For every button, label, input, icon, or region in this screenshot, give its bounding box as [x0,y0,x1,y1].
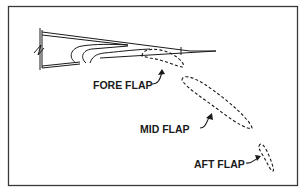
leader-arrows [152,69,261,163]
fore-flap-outline [142,49,184,67]
aft-flap-outline [259,144,274,171]
mid-flap-label: MID FLAP [140,123,190,135]
wing-section [34,28,216,70]
fore-flap-label: FORE FLAP [93,79,153,91]
aft-flap-arrow-icon [246,158,258,163]
extended-flaps [142,49,273,171]
flap-diagram: FORE FLAP MID FLAP AFT FLAP [0,0,306,192]
mid-flap-outline [182,77,252,129]
aft-flap-label: AFT FLAP [194,158,245,170]
